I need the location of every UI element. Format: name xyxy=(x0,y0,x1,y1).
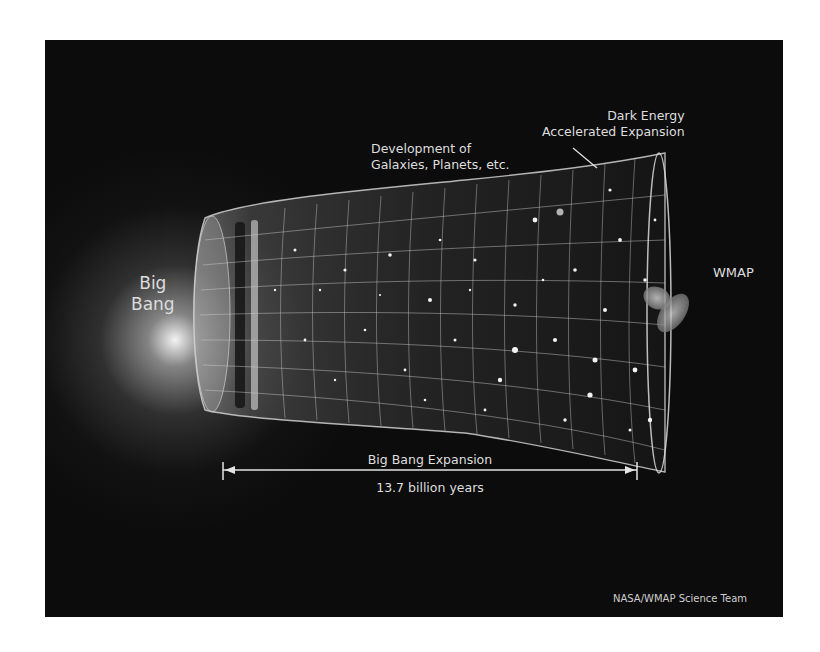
duration-label: 13.7 billion years xyxy=(345,480,515,495)
pointer-line-icon xyxy=(573,148,597,168)
dark-energy-label: Dark Energy Accelerated Expansion xyxy=(542,108,685,140)
dark-energy-line2: Accelerated Expansion xyxy=(542,124,685,140)
diagram-panel: Big Bang Development of Galaxies, Planet… xyxy=(45,40,783,617)
big-bang-label: Big Bang xyxy=(131,273,175,315)
expansion-label: Big Bang Expansion xyxy=(345,452,515,467)
big-bang-line2: Bang xyxy=(131,294,175,315)
development-line1: Development of xyxy=(371,141,510,157)
big-bang-line1: Big xyxy=(131,273,175,294)
development-label: Development of Galaxies, Planets, etc. xyxy=(371,141,510,173)
credit-label: NASA/WMAP Science Team xyxy=(613,593,747,604)
development-line2: Galaxies, Planets, etc. xyxy=(371,157,510,173)
wmap-label: WMAP xyxy=(713,265,754,280)
dark-energy-line1: Dark Energy xyxy=(542,108,685,124)
